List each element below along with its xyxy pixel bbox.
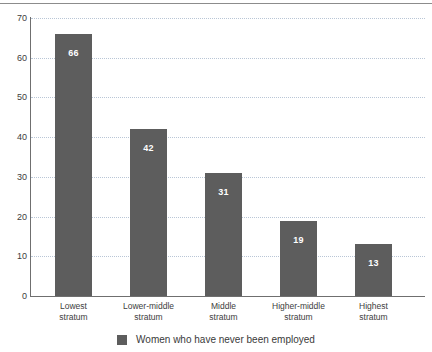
bar-middle-stratum[interactable]: 31	[205, 173, 242, 296]
x-label-line-2: stratum	[114, 312, 184, 323]
chart-legend: Women who have never been employed	[0, 334, 432, 345]
y-tick-30: 30	[3, 173, 27, 182]
x-label-higher-middle-stratum: Higher-middle stratum	[264, 301, 334, 323]
x-label-lowest-stratum: Lowest stratum	[39, 301, 109, 323]
bar-series-women-never-employed: 66 42 31 19 13	[31, 18, 425, 296]
x-label-highest-stratum: Highest stratum	[339, 301, 409, 323]
legend-swatch-icon	[117, 335, 127, 345]
bar-higher-middle-stratum[interactable]: 19	[280, 221, 317, 296]
bar-group-lowest-stratum: 66	[55, 18, 92, 296]
x-label-line-1: Higher-middle	[264, 301, 334, 312]
bar-lowest-stratum[interactable]: 66	[55, 34, 92, 296]
x-label-line-2: stratum	[39, 312, 109, 323]
x-axis-category-labels: Lowest stratum Lower-middle stratum Midd…	[31, 301, 425, 327]
y-tick-60: 60	[3, 54, 27, 63]
bar-group-higher-middle-stratum: 19	[280, 18, 317, 296]
bar-value-label: 13	[355, 258, 392, 268]
bar-chart-figure: 70 60 50 40 30 20 10 0 66 42	[0, 0, 432, 352]
bar-value-label: 31	[205, 187, 242, 197]
bar-group-middle-stratum: 31	[205, 18, 242, 296]
x-label-line-1: Middle	[189, 301, 259, 312]
y-tick-50: 50	[3, 93, 27, 102]
y-tick-20: 20	[3, 213, 27, 222]
y-axis-tick-labels: 70 60 50 40 30 20 10 0	[0, 18, 27, 296]
y-tick-70: 70	[3, 14, 27, 23]
y-tick-10: 10	[3, 252, 27, 261]
x-label-middle-stratum: Middle stratum	[189, 301, 259, 323]
x-label-line-1: Lower-middle	[114, 301, 184, 312]
y-tick-40: 40	[3, 133, 27, 142]
legend-label-women-never-employed: Women who have never been employed	[136, 334, 315, 345]
x-label-line-2: stratum	[189, 312, 259, 323]
x-label-line-1: Highest	[339, 301, 409, 312]
y-tick-0: 0	[3, 292, 27, 301]
x-label-line-2: stratum	[264, 312, 334, 323]
bar-lower-middle-stratum[interactable]: 42	[130, 129, 167, 296]
x-label-line-1: Lowest	[39, 301, 109, 312]
bar-value-label: 42	[130, 143, 167, 153]
x-label-lower-middle-stratum: Lower-middle stratum	[114, 301, 184, 323]
bar-value-label: 66	[55, 48, 92, 58]
top-divider-rule	[0, 3, 432, 4]
bar-group-lower-middle-stratum: 42	[130, 18, 167, 296]
x-label-line-2: stratum	[339, 312, 409, 323]
bar-value-label: 19	[280, 235, 317, 245]
x-axis-line	[30, 296, 425, 297]
bar-group-highest-stratum: 13	[355, 18, 392, 296]
bar-highest-stratum[interactable]: 13	[355, 244, 392, 296]
